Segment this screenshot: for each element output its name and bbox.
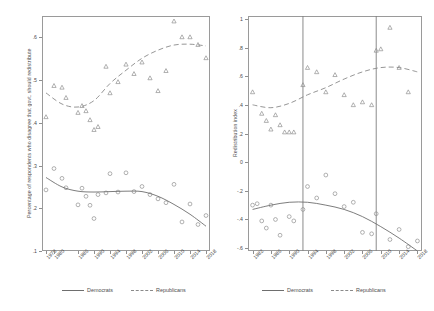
data-point-triangle [283,130,287,134]
data-point-triangle [406,90,410,94]
y-tick-mark [245,76,248,77]
data-point-circle [370,232,374,236]
y-tick-label: 1 [226,16,243,22]
data-point-circle [324,173,328,177]
data-point-triangle [388,25,392,29]
fit-line-democrats [253,202,418,251]
plot-series-right [0,0,434,311]
y-tick-label: -.4 [226,216,243,222]
legend-item-republicans[interactable]: Republicans [331,287,386,293]
data-point-circle [416,239,420,243]
legend-right: DemocratsRepublicans [262,287,386,293]
y-tick-mark [245,191,248,192]
data-point-triangle [324,90,328,94]
y-tick-mark [245,248,248,249]
data-point-triangle [292,130,296,134]
figure-root: Percentage of respondents who disagree t… [0,0,434,311]
y-tick-label: .6 [226,73,243,79]
data-point-circle [306,185,310,189]
y-tick-label: .8 [226,45,243,51]
data-point-circle [351,200,355,204]
data-point-triangle [342,93,346,97]
data-point-triangle [250,90,254,94]
data-point-triangle [370,103,374,107]
data-point-triangle [260,111,264,115]
y-tick-label: -.2 [226,188,243,194]
data-point-circle [255,202,259,206]
y-tick-label: .2 [226,131,243,137]
data-point-triangle [269,127,273,131]
data-point-circle [361,230,365,234]
y-tick-label: -.6 [226,245,243,251]
data-point-circle [388,238,392,242]
data-point-circle [292,219,296,223]
data-point-circle [342,205,346,209]
data-point-triangle [333,73,337,77]
data-point-triangle [315,70,319,74]
data-point-circle [315,196,319,200]
legend-solid-swatch-icon [262,290,284,291]
y-tick-mark [245,48,248,49]
data-point-triangle [278,123,282,127]
legend-dashed-swatch-icon [331,290,353,291]
data-point-circle [397,228,401,232]
data-point-triangle [287,130,291,134]
data-point-triangle [273,113,277,117]
data-point-circle [260,219,264,223]
y-tick-mark [245,134,248,135]
data-point-circle [264,226,268,230]
y-tick-label: .4 [226,102,243,108]
data-point-circle [278,233,282,237]
y-tick-mark [245,219,248,220]
data-point-triangle [360,100,364,104]
data-point-triangle [351,103,355,107]
legend-label: Democrats [287,287,313,293]
data-point-triangle [379,47,383,51]
legend-label: Republicans [356,287,386,293]
data-point-circle [287,215,291,219]
data-point-circle [274,218,278,222]
data-point-circle [251,203,255,207]
y-tick-label: 0 [226,159,243,165]
legend-item-democrats[interactable]: Democrats [262,287,313,293]
y-tick-mark [245,19,248,20]
data-point-triangle [305,65,309,69]
y-tick-mark [245,105,248,106]
data-point-circle [333,192,337,196]
data-point-triangle [264,119,268,123]
y-tick-mark [245,162,248,163]
